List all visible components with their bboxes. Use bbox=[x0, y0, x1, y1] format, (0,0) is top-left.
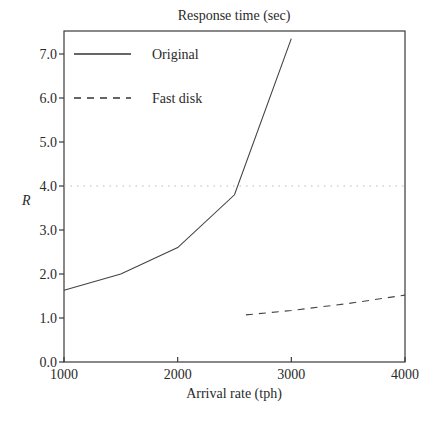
y-tick-label: 1.0 bbox=[40, 311, 58, 326]
series-line-fast-disk bbox=[246, 295, 405, 315]
plot-frame bbox=[64, 31, 405, 362]
x-tick-label: 1000 bbox=[50, 367, 78, 382]
legend-label: Original bbox=[152, 47, 199, 62]
chart: Response time (sec) 0.01.02.03.04.05.06.… bbox=[0, 0, 433, 421]
y-tick-label: 7.0 bbox=[40, 47, 58, 62]
chart-title: Response time (sec) bbox=[178, 8, 291, 24]
y-tick-label: 6.0 bbox=[40, 91, 58, 106]
x-axis-label: Arrival rate (tph) bbox=[186, 386, 282, 402]
series-group bbox=[64, 39, 405, 315]
y-tick-label: 3.0 bbox=[40, 223, 58, 238]
y-axis: 0.01.02.03.04.05.06.07.0 bbox=[40, 47, 65, 370]
x-tick-label: 4000 bbox=[391, 367, 419, 382]
series-line-original bbox=[64, 39, 291, 291]
y-tick-label: 2.0 bbox=[40, 267, 58, 282]
x-tick-label: 2000 bbox=[164, 367, 192, 382]
legend-label: Fast disk bbox=[152, 91, 202, 106]
x-tick-label: 3000 bbox=[277, 367, 305, 382]
y-tick-label: 4.0 bbox=[40, 179, 58, 194]
y-axis-label: R bbox=[21, 193, 31, 208]
legend: OriginalFast disk bbox=[74, 47, 202, 106]
x-axis: 1000200030004000 bbox=[50, 357, 419, 382]
y-tick-label: 5.0 bbox=[40, 135, 58, 150]
